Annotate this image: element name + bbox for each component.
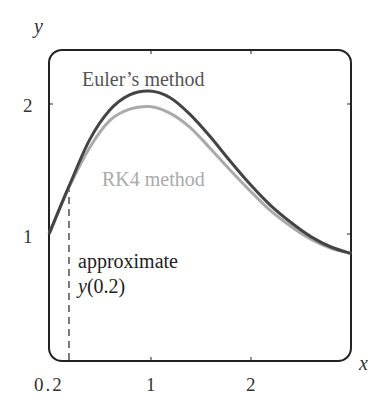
y-at-0-2-label: y(0.2) (76, 275, 125, 298)
x-tick-label-1: 1 (146, 374, 156, 395)
y-axis-label: y (32, 15, 43, 38)
chart: y x 2 1 0.2 1 2 Euler’s method RK4 metho… (0, 0, 383, 412)
rk4-method-label: RK4 method (102, 168, 205, 190)
y-tick-label-1: 1 (23, 226, 33, 247)
approximate-label: approximate (78, 250, 178, 273)
x-tick-label-0-2: 0.2 (34, 374, 64, 395)
plot-frame (49, 50, 351, 361)
x-axis-label: x (358, 352, 368, 374)
x-tick-label-2: 2 (246, 374, 256, 395)
euler-method-label: Euler’s method (82, 68, 204, 90)
tick-marks (49, 50, 351, 361)
y-function-symbol: y (76, 275, 87, 298)
y-tick-label-2: 2 (23, 95, 33, 116)
y-function-argument: (0.2) (87, 275, 125, 298)
